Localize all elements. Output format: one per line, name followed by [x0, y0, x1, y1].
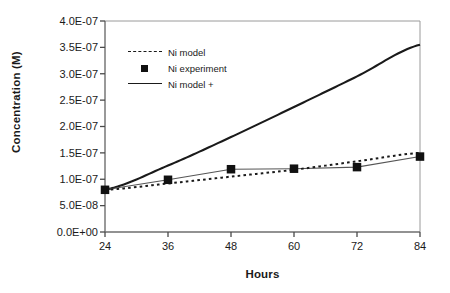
x-tick-label: 36: [148, 240, 188, 252]
legend-label: Ni model +: [168, 79, 214, 90]
chart-legend: Ni model Ni experiment Ni model +: [128, 44, 278, 92]
data-point-marker: [353, 163, 362, 172]
data-point-marker: [164, 176, 173, 185]
x-axis-ticks: [105, 232, 420, 237]
y-axis-ticks: [100, 21, 105, 232]
data-point-marker: [101, 186, 110, 195]
legend-label: Ni experiment: [168, 63, 227, 74]
data-point-marker: [227, 165, 236, 174]
x-tick-label: 60: [274, 240, 314, 252]
x-tick-label: 72: [337, 240, 377, 252]
x-tick-label: 84: [400, 240, 440, 252]
x-tick-label: 24: [85, 240, 125, 252]
solid-line-key-icon: [128, 78, 162, 90]
data-point-marker: [416, 152, 425, 161]
data-point-marker: [290, 164, 299, 173]
legend-item-ni-experiment: Ni experiment: [128, 60, 278, 76]
x-axis-title: Hours: [105, 268, 420, 280]
dashed-line-key-icon: [128, 46, 162, 58]
square-marker-key-icon: [128, 62, 162, 74]
legend-item-ni-model: Ni model: [128, 44, 278, 60]
legend-label: Ni model: [168, 47, 206, 58]
x-tick-label: 48: [211, 240, 251, 252]
chart-figure: Concentration (M) 4.0E-07 3.5E-07 3.0E-0…: [0, 0, 450, 293]
legend-item-ni-model-plus: Ni model +: [128, 76, 278, 92]
